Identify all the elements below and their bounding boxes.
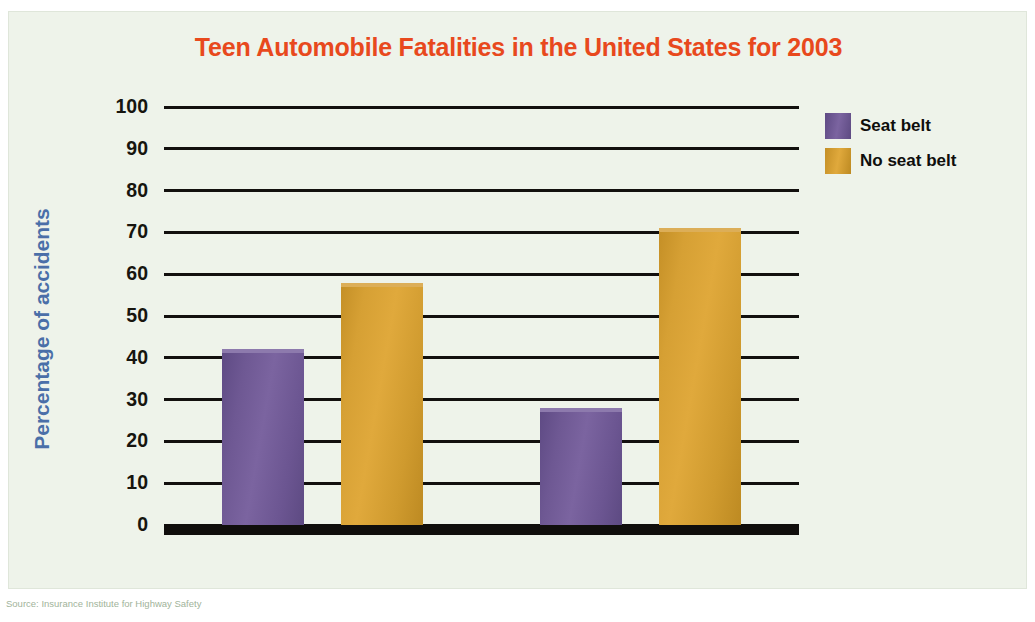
- y-tick-label: 40: [78, 348, 148, 368]
- chart-title: Teen Automobile Fatalities in the United…: [9, 33, 1028, 62]
- legend-item-seat-belt: Seat belt: [825, 113, 1015, 139]
- bar-face: [659, 228, 741, 525]
- bar-drivers-no-seat-belt: [341, 283, 423, 525]
- gridline: [164, 106, 799, 109]
- bar-face: [222, 349, 304, 525]
- y-tick-label: 90: [78, 139, 148, 159]
- y-tick-label: 0: [78, 515, 148, 535]
- x-axis-baseline: [164, 524, 799, 535]
- y-tick-label: 50: [78, 306, 148, 326]
- y-axis-title: Percentage of accidents: [30, 159, 54, 499]
- bar-cap: [540, 408, 622, 412]
- bar-face: [540, 408, 622, 525]
- y-tick-label: 70: [78, 222, 148, 242]
- bar-passengers-seat-belt: [540, 408, 622, 525]
- bar-cap: [222, 349, 304, 353]
- gridline: [164, 189, 799, 192]
- y-tick-label: 60: [78, 264, 148, 284]
- bar-passengers-no-seat-belt: [659, 228, 741, 525]
- legend-label-seat-belt: Seat belt: [860, 116, 931, 136]
- legend-label-no-seat-belt: No seat belt: [860, 151, 956, 171]
- legend-swatch-no-seat-belt: [825, 148, 851, 174]
- y-tick-label: 80: [78, 181, 148, 201]
- legend-item-no-seat-belt: No seat belt: [825, 148, 1015, 174]
- y-tick-label: 100: [78, 97, 148, 117]
- legend-swatch-seat-belt: [825, 113, 851, 139]
- bar-cap: [659, 228, 741, 232]
- bar-face: [341, 283, 423, 525]
- chart-figure: Teen Automobile Fatalities in the United…: [0, 0, 1035, 622]
- y-tick-label: 20: [78, 431, 148, 451]
- bar-cap: [341, 283, 423, 287]
- gridline: [164, 147, 799, 150]
- source-note: Source: Insurance Institute for Highway …: [6, 598, 201, 609]
- chart-panel: Teen Automobile Fatalities in the United…: [8, 11, 1027, 589]
- chart-legend: Seat belt No seat belt: [825, 113, 1015, 183]
- plot-area: 0102030405060708090100DriversPassengers: [164, 107, 799, 525]
- bar-drivers-seat-belt: [222, 349, 304, 525]
- y-tick-label: 30: [78, 390, 148, 410]
- y-tick-label: 10: [78, 473, 148, 493]
